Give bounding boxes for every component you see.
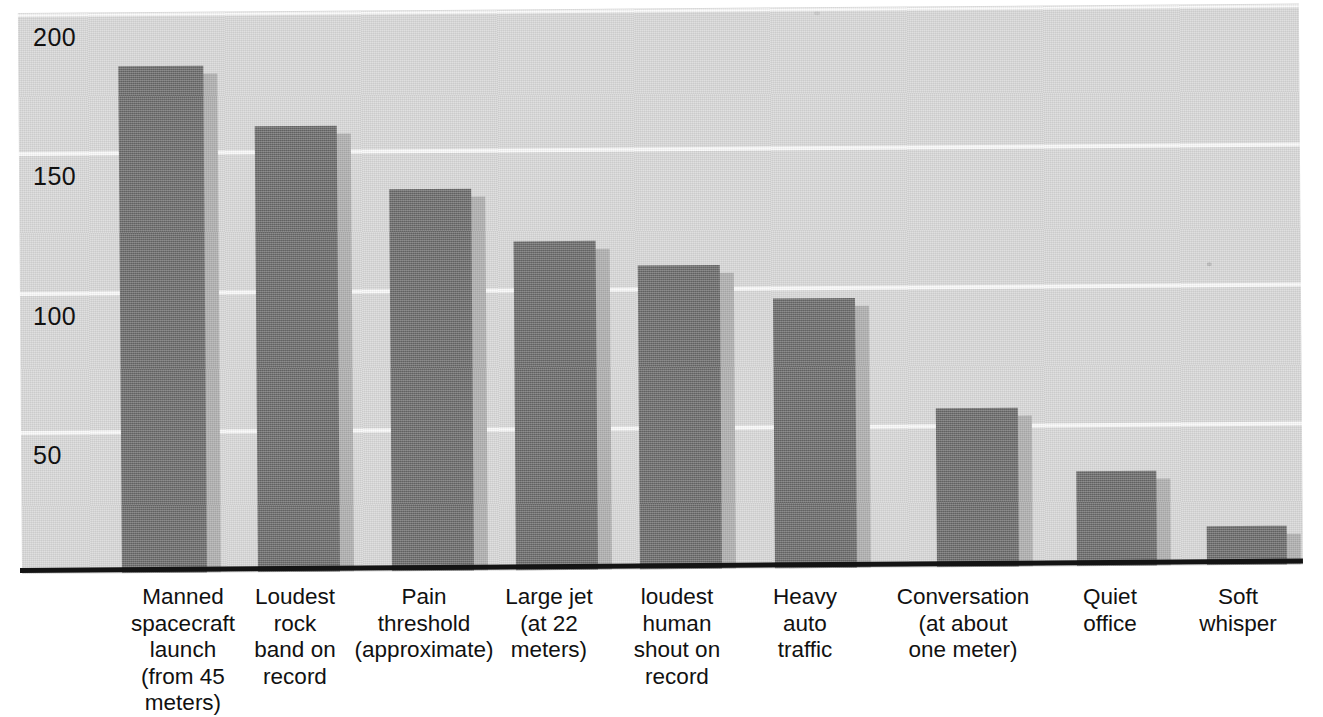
category-label-5: loudest human shout on record (597, 584, 757, 690)
bar-4 (514, 241, 612, 570)
bar-6 (773, 298, 871, 569)
bar-5 (638, 265, 736, 569)
bar-8 (1076, 471, 1171, 566)
bar-1 (118, 66, 221, 574)
gridline-200 (18, 5, 1299, 17)
bar-fill-1 (118, 66, 207, 573)
plot-area (18, 4, 1303, 574)
bar-3 (389, 189, 488, 571)
scan-artifact-speck (814, 11, 820, 15)
scan-artifact-speck-right (1207, 262, 1212, 266)
bar-7 (936, 408, 1033, 567)
gridlines (18, 4, 1299, 13)
bar-fill-8 (1076, 471, 1157, 566)
y-tick-label-200: 200 (33, 23, 76, 52)
y-tick-label-150: 150 (33, 162, 76, 191)
category-label-9: Soft whisper (1163, 584, 1313, 637)
bar-fill-6 (773, 298, 857, 569)
bar-fill-5 (638, 265, 722, 569)
x-axis-category-labels: Manned spacecraft launch (from 45 meters… (0, 584, 1323, 706)
y-tick-label-100: 100 (33, 302, 76, 331)
bar-fill-4 (514, 241, 598, 570)
bar-fill-3 (389, 189, 474, 571)
y-tick-label-50: 50 (33, 441, 62, 470)
bar-fill-2 (255, 126, 340, 572)
bar-2 (255, 126, 354, 572)
bar-fill-7 (936, 408, 1019, 567)
